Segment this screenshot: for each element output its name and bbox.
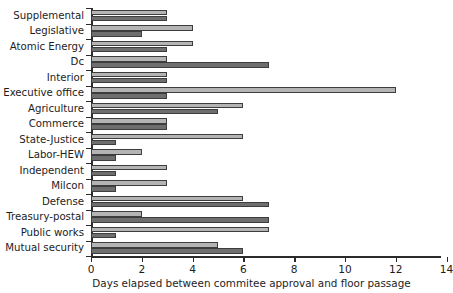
- y-axis-tick: [86, 241, 91, 242]
- x-axis-tick-label: 10: [338, 263, 351, 275]
- y-axis-label: Labor-HEW: [0, 149, 84, 160]
- x-axis-title: Days elapsed between commitee approval a…: [0, 277, 445, 289]
- y-axis-label: State-Justice: [0, 134, 84, 145]
- y-axis-tick: [86, 148, 91, 149]
- x-axis-line: [91, 256, 441, 258]
- x-axis-tick: [447, 257, 448, 262]
- bar-dark: [91, 31, 142, 37]
- bar-group: [91, 101, 447, 117]
- bar-light: [91, 87, 396, 93]
- bar-group: [91, 39, 447, 55]
- x-axis-tick: [193, 257, 194, 262]
- x-axis-tick-label: 12: [389, 263, 402, 275]
- bar-light: [91, 242, 218, 248]
- bar-group: [91, 86, 447, 102]
- y-axis-label: Atomic Energy: [0, 41, 84, 52]
- x-axis-tick: [91, 257, 92, 262]
- bar-dark: [91, 140, 116, 146]
- bar-light: [91, 56, 167, 62]
- y-axis-label: Interior: [0, 72, 84, 83]
- y-axis-tick: [86, 163, 91, 164]
- bar-group: [91, 70, 447, 86]
- x-axis-tick: [345, 257, 346, 262]
- bar-dark: [91, 47, 167, 53]
- bar-light: [91, 41, 193, 47]
- bar-light: [91, 165, 167, 171]
- bar-group: [91, 225, 447, 241]
- y-axis-label: Defense: [0, 196, 84, 207]
- bar-group: [91, 55, 447, 71]
- bar-light: [91, 149, 142, 155]
- bar-dark: [91, 78, 167, 84]
- bar-dark: [91, 248, 243, 254]
- bar-dark: [91, 171, 116, 177]
- x-axis-tick: [243, 257, 244, 262]
- bar-dark: [91, 109, 218, 115]
- bar-light: [91, 10, 167, 16]
- y-axis-category-labels: SupplementalLegislativeAtomic EnergyDcIn…: [0, 8, 84, 256]
- y-axis-label: Supplemental: [0, 10, 84, 21]
- y-axis-tick: [86, 117, 91, 118]
- y-axis-label: Dc: [0, 56, 84, 67]
- y-axis-label: Milcon: [0, 180, 84, 191]
- bar-dark: [91, 62, 269, 68]
- y-axis-label: Executive office: [0, 87, 84, 98]
- bar-light: [91, 227, 269, 233]
- x-axis-tick-label: 8: [291, 263, 298, 275]
- bar-light: [91, 103, 243, 109]
- bar-group: [91, 194, 447, 210]
- bar-group: [91, 8, 447, 24]
- y-axis-tick: [86, 101, 91, 102]
- y-axis-label: Mutual security: [0, 242, 84, 253]
- bar-dark: [91, 155, 116, 161]
- x-axis-title-text: Days elapsed between commitee approval a…: [34, 277, 410, 289]
- bar-light: [91, 211, 142, 217]
- bar-light: [91, 196, 243, 202]
- bar-dark: [91, 93, 167, 99]
- y-axis-tick: [86, 225, 91, 226]
- x-axis-tick-label: 14: [440, 263, 453, 275]
- x-axis-tick-label: 2: [138, 263, 145, 275]
- bar-group: [91, 179, 447, 195]
- y-axis-tick: [86, 24, 91, 25]
- bar-dark: [91, 124, 167, 130]
- bar-dark: [91, 16, 167, 22]
- y-axis-label: Treasury-postal: [0, 211, 84, 222]
- x-axis-tick-label: 0: [88, 263, 95, 275]
- y-axis-tick: [86, 70, 91, 71]
- y-axis-tick: [86, 55, 91, 56]
- x-axis-tick-label: 6: [240, 263, 247, 275]
- bar-group: [91, 210, 447, 226]
- y-axis-tick: [86, 39, 91, 40]
- y-axis-label: Legislative: [0, 25, 84, 36]
- y-axis-tick: [86, 194, 91, 195]
- bar-light: [91, 72, 167, 78]
- y-axis-label: Commerce: [0, 118, 84, 129]
- bar-group: [91, 117, 447, 133]
- y-axis-tick: [86, 86, 91, 87]
- bar-light: [91, 180, 167, 186]
- bar-group: [91, 163, 447, 179]
- x-axis-tick: [294, 257, 295, 262]
- x-axis-tick-label: 4: [189, 263, 196, 275]
- bar-light: [91, 134, 243, 140]
- bar-group: [91, 241, 447, 257]
- bar-group: [91, 24, 447, 40]
- bar-group: [91, 132, 447, 148]
- bar-dark: [91, 202, 269, 208]
- y-axis-label: Independent: [0, 165, 84, 176]
- y-axis-tick: [86, 132, 91, 133]
- y-axis-tick: [86, 8, 91, 9]
- bar-dark: [91, 233, 116, 239]
- bar-dark: [91, 217, 269, 223]
- bar-light: [91, 25, 193, 31]
- y-axis-tick: [86, 179, 91, 180]
- plot-area: [91, 8, 447, 256]
- y-axis-label: Agriculture: [0, 103, 84, 114]
- bar-light: [91, 118, 167, 124]
- y-axis-label: Public works: [0, 227, 84, 238]
- bar-dark: [91, 186, 116, 192]
- x-axis-tick: [142, 257, 143, 262]
- y-axis-tick: [86, 210, 91, 211]
